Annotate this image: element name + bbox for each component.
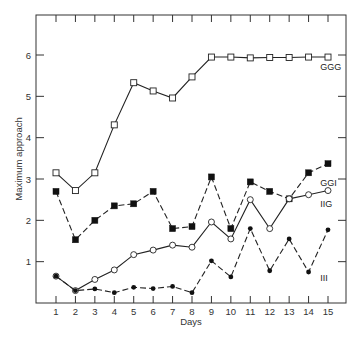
x-tick-label: 14 — [303, 306, 314, 317]
filled-square-marker — [325, 161, 331, 167]
filled-square-marker — [150, 188, 156, 194]
x-tick-label: 4 — [112, 306, 117, 317]
open-circle-marker — [208, 219, 214, 225]
series-label: IIG — [320, 199, 332, 209]
filled-circle-marker — [267, 268, 272, 273]
filled-square-marker — [267, 188, 273, 194]
filled-square-marker — [208, 174, 214, 180]
filled-circle-marker — [92, 287, 97, 292]
open-circle-marker — [92, 276, 98, 282]
series-ggg — [53, 54, 331, 194]
filled-circle-marker — [73, 288, 78, 293]
open-square-marker — [267, 54, 273, 60]
open-circle-marker — [286, 196, 292, 202]
x-tick-label: 9 — [209, 306, 214, 317]
x-tick-label: 5 — [131, 306, 136, 317]
filled-square-marker — [228, 226, 234, 232]
series-label: GGI — [320, 178, 337, 188]
open-circle-marker — [111, 267, 117, 273]
open-square-marker — [150, 88, 156, 94]
series-labels: GGGGGIIIGIII — [320, 62, 341, 283]
filled-square-marker — [72, 237, 78, 243]
filled-circle-marker — [190, 290, 195, 295]
filled-circle-marker — [248, 226, 253, 231]
open-circle-marker — [325, 188, 331, 194]
open-square-marker — [131, 80, 137, 86]
open-circle-marker — [247, 197, 253, 203]
x-tick-label: 6 — [150, 306, 155, 317]
open-circle-marker — [267, 226, 273, 232]
open-square-marker — [286, 54, 292, 60]
open-circle-marker — [228, 236, 234, 242]
filled-square-marker — [247, 179, 253, 185]
open-square-marker — [325, 54, 331, 60]
y-tick-label: 6 — [26, 50, 31, 61]
x-tick-label: 11 — [245, 306, 255, 317]
data-series — [53, 54, 331, 295]
filled-circle-marker — [131, 285, 136, 290]
y-tick-label: 4 — [26, 132, 31, 143]
filled-square-marker — [306, 170, 312, 176]
x-tick-label: 15 — [323, 306, 334, 317]
x-tick-label: 1 — [53, 306, 58, 317]
x-tick-label: 10 — [226, 306, 237, 317]
open-square-marker — [72, 188, 78, 194]
open-circle-marker — [131, 252, 137, 258]
series-line — [56, 191, 328, 291]
open-circle-marker — [150, 247, 156, 253]
series-iii — [54, 226, 331, 295]
open-square-marker — [111, 122, 117, 128]
filled-circle-marker — [209, 258, 214, 263]
open-square-marker — [53, 170, 59, 176]
open-circle-marker — [170, 242, 176, 248]
filled-square-marker — [92, 217, 98, 223]
x-tick-label: 2 — [73, 306, 78, 317]
plot-frame — [36, 15, 346, 303]
y-tick-label: 1 — [26, 256, 31, 267]
filled-circle-marker — [54, 274, 59, 279]
filled-circle-marker — [151, 286, 156, 291]
series-label: III — [320, 273, 328, 283]
filled-circle-marker — [326, 227, 331, 232]
x-tick-label: 3 — [92, 306, 97, 317]
open-square-marker — [92, 170, 98, 176]
filled-square-marker — [189, 224, 195, 230]
filled-circle-marker — [306, 270, 311, 275]
open-square-marker — [306, 54, 312, 60]
open-square-marker — [247, 55, 253, 61]
open-square-marker — [228, 54, 234, 60]
filled-square-marker — [131, 201, 137, 207]
open-circle-marker — [306, 192, 312, 198]
x-axis-label: Days — [180, 316, 202, 327]
filled-square-marker — [111, 203, 117, 209]
axis-ticks: 123456789101112131415123456 — [26, 15, 346, 317]
open-square-marker — [189, 74, 195, 80]
open-circle-marker — [189, 244, 195, 250]
filled-square-marker — [170, 226, 176, 232]
open-square-marker — [170, 95, 176, 101]
open-square-marker — [208, 54, 214, 60]
y-tick-label: 5 — [26, 91, 31, 102]
filled-square-marker — [53, 188, 59, 194]
filled-circle-marker — [228, 275, 233, 280]
x-tick-label: 7 — [170, 306, 175, 317]
series-label: GGG — [320, 62, 341, 72]
y-tick-label: 2 — [26, 215, 31, 226]
filled-circle-marker — [287, 237, 292, 242]
x-tick-label: 13 — [284, 306, 295, 317]
y-tick-label: 3 — [26, 174, 31, 185]
y-axis-label: Maximum approach — [13, 117, 24, 200]
line-chart: 123456789101112131415123456 GGGGGIIIGIII… — [0, 0, 362, 341]
x-tick-label: 12 — [264, 306, 275, 317]
filled-circle-marker — [170, 284, 175, 289]
filled-circle-marker — [112, 290, 117, 295]
